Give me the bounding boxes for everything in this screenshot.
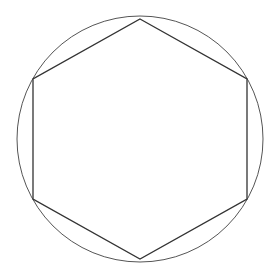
hexagon-in-circle-diagram [0, 0, 278, 272]
background [0, 0, 278, 272]
